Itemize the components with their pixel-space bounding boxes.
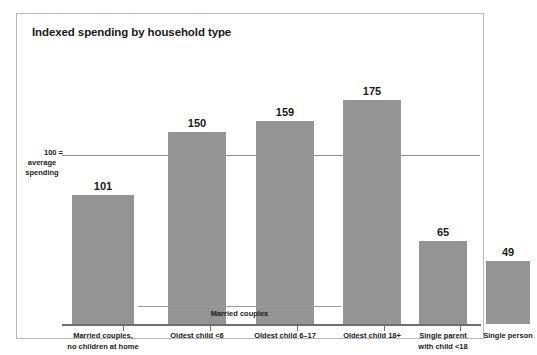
bar-value-label: 65 xyxy=(419,226,467,238)
bar xyxy=(343,100,401,324)
bar-value-label: 159 xyxy=(256,106,314,118)
axis-tick xyxy=(123,326,124,331)
reference-note-line-1: 100 = xyxy=(20,148,64,158)
bar xyxy=(486,261,530,324)
axis-tick xyxy=(297,326,298,331)
category-label: Oldest child <6 xyxy=(146,331,248,342)
category-label: Single person xyxy=(464,331,537,342)
reference-note-line-3: spending xyxy=(20,168,64,178)
plot-area: 1011501591756549 Married couples, no chi… xyxy=(62,40,480,285)
bar xyxy=(256,121,314,324)
axis-tick xyxy=(384,326,385,331)
married-couples-bracket xyxy=(138,306,341,307)
category-label: Married couples, no children at home xyxy=(50,331,156,352)
bar-value-label: 101 xyxy=(72,180,134,192)
bar-value-label: 175 xyxy=(343,85,401,97)
bar xyxy=(72,195,134,324)
axis-tick xyxy=(460,326,461,331)
reference-line-annotation: 100 = average spending xyxy=(20,148,64,178)
bar-value-label: 150 xyxy=(168,117,226,129)
bar-value-label: 49 xyxy=(486,246,530,258)
bar xyxy=(419,241,467,324)
married-couples-bracket-label: Married couples xyxy=(138,309,341,318)
x-axis-baseline xyxy=(62,324,481,326)
axis-tick xyxy=(210,326,211,331)
chart-title: Indexed spending by household type xyxy=(32,26,231,38)
bar xyxy=(168,132,226,324)
reference-note-line-2: average xyxy=(20,158,64,168)
